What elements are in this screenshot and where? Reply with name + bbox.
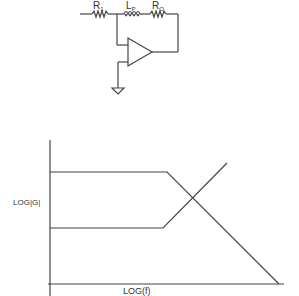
x-axis-label: LOG(f) bbox=[123, 286, 151, 296]
ro-label: RO bbox=[152, 0, 164, 12]
op-amp bbox=[128, 38, 152, 66]
r1-label: R1 bbox=[93, 0, 104, 12]
ground-icon bbox=[112, 88, 124, 94]
circuit-schematic bbox=[80, 11, 178, 94]
y-axis-label: LOG|G| bbox=[13, 198, 40, 207]
bode-plot bbox=[48, 140, 284, 296]
series-lower-rising bbox=[50, 163, 227, 228]
diagram-canvas: R1 LP RO LOG|G| LOG(f) bbox=[0, 0, 299, 296]
inductor-lp bbox=[124, 12, 140, 17]
lp-label: LP bbox=[126, 0, 136, 12]
